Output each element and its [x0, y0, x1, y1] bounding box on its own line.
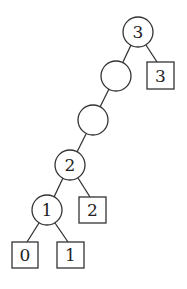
- node-empty-1: [101, 61, 131, 91]
- node-1-label: 1: [42, 200, 53, 220]
- edge-empty2-to-node2: [77, 134, 86, 152]
- node-empty-2: [78, 105, 108, 135]
- edge-root-to-empty1: [123, 45, 131, 62]
- leaf-0-label: 0: [20, 245, 31, 265]
- tree-diagram: 3 2 1 3 2 0 1: [0, 0, 187, 289]
- node-1: 1: [32, 195, 62, 225]
- leaf-3-label: 3: [155, 66, 166, 86]
- edge-root-to-leaf3: [146, 45, 157, 62]
- leaf-2: 2: [79, 197, 106, 223]
- leaf-3: 3: [147, 62, 174, 89]
- node-2: 2: [55, 150, 85, 180]
- node-root-label: 3: [133, 22, 144, 42]
- leaf-1: 1: [57, 242, 84, 268]
- leaf-1-label: 1: [65, 245, 76, 265]
- edge-node1-to-leaf0: [27, 223, 39, 242]
- node-root-3: 3: [123, 17, 153, 47]
- leaf-2-label: 2: [87, 200, 98, 220]
- leaf-0: 0: [12, 242, 38, 268]
- edge-node2-to-node1: [54, 178, 63, 197]
- edge-node1-to-leaf1: [55, 223, 68, 242]
- edge-node2-to-leaf2: [78, 178, 90, 197]
- edge-empty1-to-empty2: [100, 89, 109, 107]
- node-2-label: 2: [65, 155, 76, 175]
